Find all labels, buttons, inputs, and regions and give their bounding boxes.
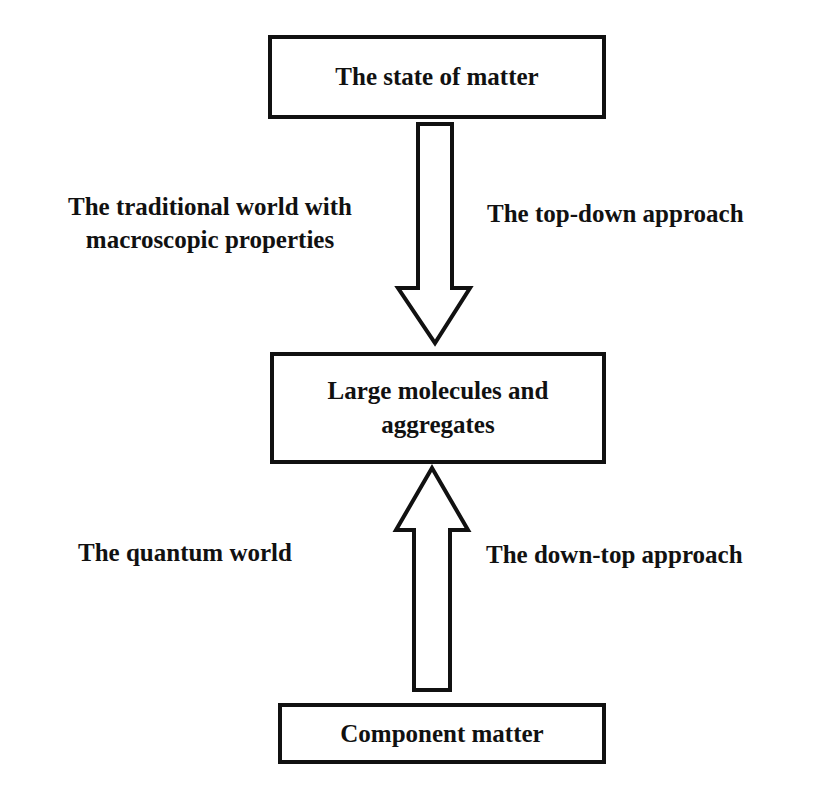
label-line-2: macroscopic properties — [30, 223, 390, 256]
label-down-top-approach: The down-top approach — [486, 538, 743, 571]
label-top-down-approach: The top-down approach — [487, 197, 744, 230]
down-arrow-icon — [398, 124, 470, 343]
up-arrow-icon — [396, 468, 468, 690]
label-traditional-world: The traditional world with macroscopic p… — [30, 190, 390, 256]
node-label-line-1: Large molecules and — [328, 374, 549, 408]
node-label-line-2: aggregates — [381, 408, 494, 442]
node-state-of-matter: The state of matter — [268, 35, 606, 119]
label-quantum-world: The quantum world — [78, 536, 292, 569]
node-label: The state of matter — [335, 60, 538, 94]
node-label: Component matter — [340, 717, 543, 751]
node-component-matter: Component matter — [278, 703, 606, 764]
node-large-molecules: Large molecules and aggregates — [270, 352, 606, 464]
label-line-1: The traditional world with — [30, 190, 390, 223]
